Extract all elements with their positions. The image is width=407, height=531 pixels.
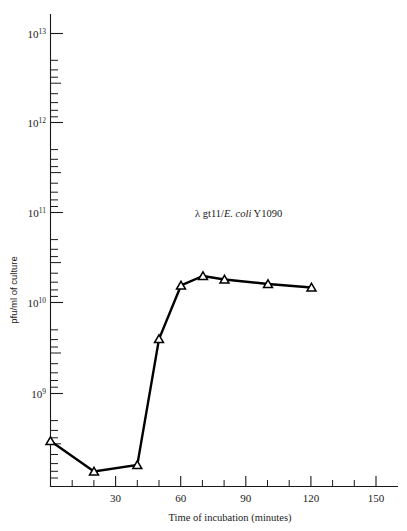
- x-tick-label-60: 60: [175, 492, 187, 504]
- x-tick-label-150: 150: [368, 492, 385, 504]
- x-axis: 30 60 90 120 150 Time of incubation (min…: [51, 476, 399, 524]
- x-axis-title: Time of incubation (minutes): [169, 512, 292, 524]
- y-tick-label-1e10: 1010: [28, 296, 47, 309]
- y-tick-label-1e13: 1013: [28, 27, 47, 40]
- figure-container: 1013 1012 1011 1010 109 pfu/ml of cultur…: [0, 0, 407, 531]
- data-point-marker: [155, 335, 164, 343]
- series-annotation-label: λ gt11/E. coli Y1090: [195, 208, 282, 219]
- x-tick-label-120: 120: [303, 492, 320, 504]
- x-tick-label-30: 30: [110, 492, 122, 504]
- y-axis: 1013 1012 1011 1010 109 pfu/ml of cultur…: [8, 14, 63, 487]
- x-tick-label-90: 90: [240, 492, 252, 504]
- y-tick-label-1e12: 1012: [28, 116, 47, 129]
- y-tick-label-1e11: 1011: [28, 206, 46, 219]
- series-lambda-gt11-ecoli-y1090: [46, 272, 316, 475]
- data-line: [51, 276, 312, 472]
- y-axis-title: pfu/ml of culture: [8, 256, 19, 324]
- log-line-chart: 1013 1012 1011 1010 109 pfu/ml of cultur…: [0, 0, 407, 531]
- y-tick-label-1e9: 109: [31, 387, 46, 400]
